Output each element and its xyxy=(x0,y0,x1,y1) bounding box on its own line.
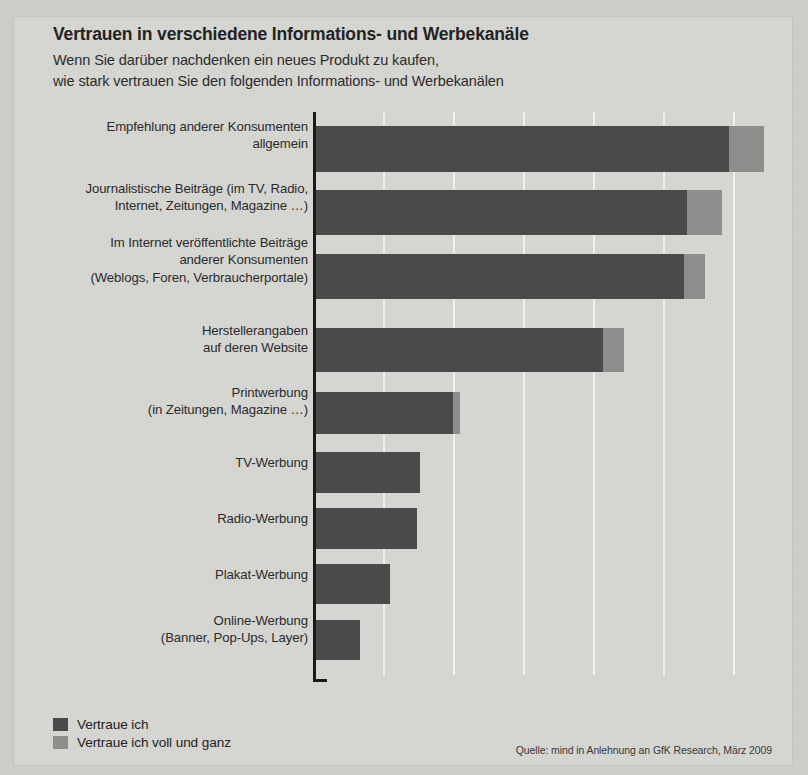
stacked-bar xyxy=(316,190,722,235)
category-label-line: anderer Konsumenten xyxy=(8,251,308,268)
category-label-line: TV-Werbung xyxy=(8,454,308,471)
chart-page: Vertrauen in verschiedene Informations- … xyxy=(0,0,808,775)
bar-segment-vertraue-ich xyxy=(316,508,417,549)
chart-legend: Vertraue ichVertraue ich voll und ganz xyxy=(53,717,231,753)
plot-canvas: Empfehlung anderer KonsumentenallgemeinJ… xyxy=(313,112,793,682)
bar-segment-vertraue-ich xyxy=(316,190,687,235)
bar-segment-vertraue-ich xyxy=(316,328,603,372)
legend-item-vertraue_ich: Vertraue ich xyxy=(53,717,231,732)
category-label: TV-Werbung xyxy=(8,454,308,471)
bar-row: Im Internet veröffentlichte Beiträgeande… xyxy=(313,254,793,299)
bar-segment-vertraue-ich xyxy=(316,620,360,660)
category-label-line: (in Zeitungen, Magazine …) xyxy=(8,401,308,418)
legend-label: Vertraue ich voll und ganz xyxy=(77,735,231,750)
bar-row: Plakat-Werbung xyxy=(313,564,793,604)
bar-segment-vertraue-voll xyxy=(684,254,705,299)
stacked-bar xyxy=(316,328,624,372)
category-label: Herstellerangabenauf deren Website xyxy=(8,322,308,357)
bar-row: Printwerbung(in Zeitungen, Magazine …) xyxy=(313,392,793,434)
bar-segment-vertraue-ich xyxy=(316,392,453,434)
bar-segment-vertraue-voll xyxy=(729,126,764,172)
bar-segment-vertraue-voll xyxy=(687,190,722,235)
category-label-line: Printwerbung xyxy=(8,384,308,401)
stacked-bar xyxy=(316,254,705,299)
category-label-line: Radio-Werbung xyxy=(8,510,308,527)
category-label: Plakat-Werbung xyxy=(8,566,308,583)
category-label-line: Herstellerangaben xyxy=(8,322,308,339)
category-label: Online-Werbung(Banner, Pop-Ups, Layer) xyxy=(8,612,308,647)
chart-title: Vertrauen in verschiedene Informations- … xyxy=(53,23,773,46)
stacked-bar xyxy=(316,620,360,660)
bar-row: Empfehlung anderer Konsumentenallgemein xyxy=(313,126,793,172)
bar-segment-vertraue-ich xyxy=(316,452,420,493)
category-label: Empfehlung anderer Konsumentenallgemein xyxy=(8,118,308,153)
category-label-line: Im Internet veröffentlichte Beiträge xyxy=(8,234,308,251)
bar-segment-vertraue-ich xyxy=(316,564,390,604)
bar-row: TV-Werbung xyxy=(313,452,793,493)
category-label-line: Plakat-Werbung xyxy=(8,566,308,583)
category-label-line: Journalistische Beiträge (im TV, Radio, xyxy=(8,180,308,197)
stacked-bar xyxy=(316,508,417,549)
bar-segment-vertraue-voll xyxy=(453,392,460,434)
legend-swatch-icon xyxy=(53,736,68,749)
bar-segment-vertraue-ich xyxy=(316,126,729,172)
bar-segment-vertraue-ich xyxy=(316,254,684,299)
chart-panel: Vertrauen in verschiedene Informations- … xyxy=(14,17,792,765)
legend-label: Vertraue ich xyxy=(77,717,148,732)
category-label-line: Online-Werbung xyxy=(8,612,308,629)
stacked-bar xyxy=(316,392,460,434)
chart-header: Vertrauen in verschiedene Informations- … xyxy=(53,23,773,92)
bar-row: Radio-Werbung xyxy=(313,508,793,549)
source-note: Quelle: mind in Anlehnung an GfK Researc… xyxy=(516,744,772,756)
stacked-bar xyxy=(316,126,764,172)
bar-row: Journalistische Beiträge (im TV, Radio,I… xyxy=(313,190,793,235)
category-label-line: auf deren Website xyxy=(8,339,308,356)
category-label: Journalistische Beiträge (im TV, Radio,I… xyxy=(8,180,308,215)
category-label-line: Internet, Zeitungen, Magazine …) xyxy=(8,197,308,214)
category-label-line: allgemein xyxy=(8,135,308,152)
legend-swatch-icon xyxy=(53,718,68,731)
chart-plot-area: Empfehlung anderer KonsumentenallgemeinJ… xyxy=(14,112,792,692)
chart-subtitle-line1: Wenn Sie darüber nachdenken ein neues Pr… xyxy=(53,50,773,71)
category-label-line: (Banner, Pop-Ups, Layer) xyxy=(8,629,308,646)
category-label-line: Empfehlung anderer Konsumenten xyxy=(8,118,308,135)
bar-row: Herstellerangabenauf deren Website xyxy=(313,328,793,372)
legend-item-vertraue_voll: Vertraue ich voll und ganz xyxy=(53,735,231,750)
axis-foot-tick xyxy=(313,679,327,682)
category-label: Radio-Werbung xyxy=(8,510,308,527)
category-label-line: (Weblogs, Foren, Verbraucherportale) xyxy=(8,269,308,286)
bar-segment-vertraue-voll xyxy=(603,328,624,372)
stacked-bar xyxy=(316,564,390,604)
chart-subtitle-line2: wie stark vertrauen Sie den folgenden In… xyxy=(53,71,773,92)
category-label: Im Internet veröffentlichte Beiträgeande… xyxy=(8,234,308,286)
bar-row: Online-Werbung(Banner, Pop-Ups, Layer) xyxy=(313,620,793,660)
category-label: Printwerbung(in Zeitungen, Magazine …) xyxy=(8,384,308,419)
stacked-bar xyxy=(316,452,420,493)
